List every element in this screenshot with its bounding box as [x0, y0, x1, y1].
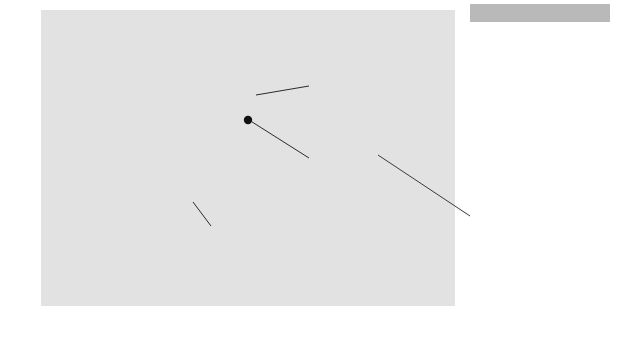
annotation-overlay	[41, 10, 455, 306]
table-header-row	[470, 4, 610, 22]
bromcresol-green-leader-line	[193, 202, 211, 226]
equivalence-leader-line	[249, 120, 309, 158]
ph-data-table	[470, 4, 610, 22]
equivalence-point-marker	[244, 116, 252, 124]
phenolphthalein-leader-line	[256, 86, 309, 95]
header-volume	[470, 4, 540, 22]
table-head	[470, 4, 610, 22]
x-axis-ticks	[41, 311, 455, 325]
titration-figure	[0, 0, 621, 350]
header-ph	[540, 4, 610, 22]
ph-data-table-panel	[470, 4, 610, 22]
titration-chart	[0, 0, 462, 350]
plot-area	[41, 10, 455, 306]
y-axis-ticks	[0, 10, 38, 306]
